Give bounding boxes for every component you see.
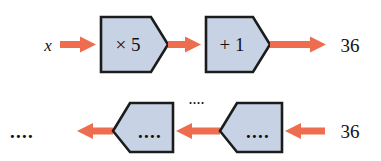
function-machine-diagram: x × 5 + 1 36 bbox=[0, 0, 381, 161]
arrow-forward-1 bbox=[60, 37, 96, 53]
arrow-inverse-3 bbox=[285, 123, 325, 139]
inverse-output-label: .... bbox=[10, 121, 34, 142]
inverse-mid-label: .... bbox=[189, 93, 205, 107]
forward-output-label: 36 bbox=[341, 35, 360, 56]
forward-row: x × 5 + 1 36 bbox=[43, 17, 359, 72]
machine-plus-1-label: + 1 bbox=[220, 34, 245, 55]
machine-inverse-left-label: .... bbox=[138, 121, 162, 142]
arrow-forward-2 bbox=[168, 37, 201, 53]
arrow-inverse-2 bbox=[176, 123, 220, 139]
inverse-input-label: 36 bbox=[341, 121, 360, 142]
machine-inverse-right: .... bbox=[220, 103, 282, 152]
machine-inverse-left: .... bbox=[113, 103, 173, 152]
inverse-row: .... .... .... .... bbox=[10, 93, 359, 152]
machine-times-5: × 5 bbox=[101, 17, 168, 72]
machine-times-5-label: × 5 bbox=[116, 34, 141, 55]
machine-plus-1: + 1 bbox=[206, 17, 270, 72]
forward-input-label: x bbox=[43, 36, 52, 55]
arrow-forward-3 bbox=[270, 37, 326, 53]
machine-inverse-right-label: .... bbox=[246, 121, 270, 142]
diagram-canvas: x × 5 + 1 36 bbox=[0, 0, 381, 161]
arrow-inverse-1 bbox=[77, 123, 113, 139]
